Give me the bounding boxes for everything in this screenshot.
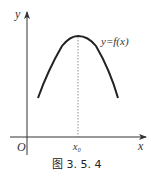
curve-label: y=f(x) <box>100 35 129 48</box>
x0-label: x₀ <box>72 141 81 152</box>
y-axis-label: y <box>14 7 21 21</box>
x-axis-label: x <box>137 139 144 153</box>
origin-label: O <box>17 140 26 154</box>
figure-caption: 图 3. 5. 4 <box>52 158 101 171</box>
function-graph: y x O y=f(x) x₀ 图 3. 5. 4 <box>0 0 151 176</box>
